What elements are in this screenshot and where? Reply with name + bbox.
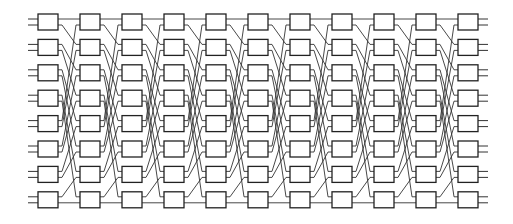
shuffle-wire xyxy=(394,95,416,171)
shuffle-wire xyxy=(142,25,164,44)
switch-box xyxy=(80,90,100,106)
switch-box xyxy=(80,116,100,132)
switch-box xyxy=(38,65,58,81)
shuffle-wire xyxy=(100,95,122,171)
switch-box xyxy=(206,192,226,208)
shuffle-wire xyxy=(184,25,206,44)
shuffle-wire xyxy=(394,152,416,177)
shuffle-wire xyxy=(268,152,290,177)
switch-box xyxy=(290,116,310,132)
shuffle-wire xyxy=(100,152,122,177)
switch-box xyxy=(416,192,436,208)
shuffle-wire xyxy=(352,177,374,196)
switch-box xyxy=(248,65,268,81)
shuffle-wire xyxy=(268,25,290,121)
shuffle-wire xyxy=(310,25,332,44)
switch-box xyxy=(458,192,478,208)
shuffle-wire xyxy=(58,25,80,44)
shuffle-wire xyxy=(352,44,374,69)
shuffle-wire xyxy=(142,95,164,171)
shuffle-wire xyxy=(142,177,164,196)
shuffle-wire xyxy=(100,44,122,69)
shuffle-wire xyxy=(268,44,290,69)
switch-box xyxy=(206,116,226,132)
switch-box xyxy=(290,14,310,30)
switch-box xyxy=(164,141,184,157)
shuffle-wire xyxy=(310,177,332,196)
switch-box xyxy=(80,141,100,157)
shuffle-wire xyxy=(142,50,164,126)
shuffle-wire xyxy=(226,25,248,121)
switch-box xyxy=(416,65,436,81)
switch-box xyxy=(80,65,100,81)
switch-box xyxy=(38,166,58,182)
switch-box xyxy=(122,166,142,182)
shuffle-wire xyxy=(394,25,416,121)
switch-box xyxy=(122,90,142,106)
switch-box xyxy=(332,141,352,157)
switch-box xyxy=(206,141,226,157)
switch-box xyxy=(332,116,352,132)
switch-box xyxy=(248,141,268,157)
switch-box xyxy=(122,65,142,81)
shuffle-wire xyxy=(100,25,122,121)
switch-box xyxy=(80,192,100,208)
switch-box xyxy=(374,192,394,208)
shuffle-wire xyxy=(352,50,374,126)
shuffle-wire xyxy=(184,152,206,177)
switch-box xyxy=(458,14,478,30)
switch-box xyxy=(290,166,310,182)
switch-box xyxy=(290,192,310,208)
switch-box xyxy=(206,39,226,55)
switch-box xyxy=(122,141,142,157)
shuffle-wire xyxy=(352,152,374,177)
shuffle-wire xyxy=(226,95,248,171)
switch-box xyxy=(416,14,436,30)
switch-box xyxy=(122,116,142,132)
switch-box xyxy=(122,192,142,208)
switch-box xyxy=(164,192,184,208)
shuffle-wire xyxy=(352,25,374,44)
switch-box xyxy=(80,14,100,30)
switch-box xyxy=(290,90,310,106)
shuffle-wire xyxy=(142,44,164,69)
shuffle-wire xyxy=(268,50,290,126)
shuffle-wire xyxy=(352,25,374,121)
switch-box xyxy=(458,166,478,182)
switch-box xyxy=(374,65,394,81)
shuffle-wire xyxy=(436,50,458,126)
switch-box xyxy=(374,141,394,157)
switch-box xyxy=(206,166,226,182)
shuffle-wire xyxy=(142,25,164,121)
shuffle-wire xyxy=(268,25,290,44)
switch-box xyxy=(206,65,226,81)
switch-box xyxy=(332,39,352,55)
shuffle-wire xyxy=(184,177,206,196)
switch-box xyxy=(332,14,352,30)
switch-box xyxy=(248,192,268,208)
switch-box xyxy=(248,14,268,30)
shuffle-wire xyxy=(58,177,80,196)
switch-box xyxy=(458,39,478,55)
switch-box xyxy=(374,90,394,106)
shuffle-wire xyxy=(310,44,332,69)
switch-box xyxy=(38,14,58,30)
shuffle-wire xyxy=(394,25,416,44)
shuffle-wire xyxy=(58,95,80,171)
shuffle-wire xyxy=(226,50,248,126)
shuffle-wire xyxy=(436,44,458,69)
switch-box xyxy=(122,39,142,55)
shuffle-wire xyxy=(142,152,164,177)
shuffle-wire xyxy=(352,95,374,171)
shuffle-wire xyxy=(310,50,332,126)
switch-box xyxy=(164,166,184,182)
shuffle-network-diagram xyxy=(0,0,513,224)
switch-box xyxy=(164,39,184,55)
shuffle-wire xyxy=(58,152,80,177)
switch-box xyxy=(458,141,478,157)
shuffle-wire xyxy=(310,95,332,171)
switch-box xyxy=(416,116,436,132)
switch-box xyxy=(122,14,142,30)
shuffle-wire xyxy=(226,44,248,69)
switch-box xyxy=(458,116,478,132)
